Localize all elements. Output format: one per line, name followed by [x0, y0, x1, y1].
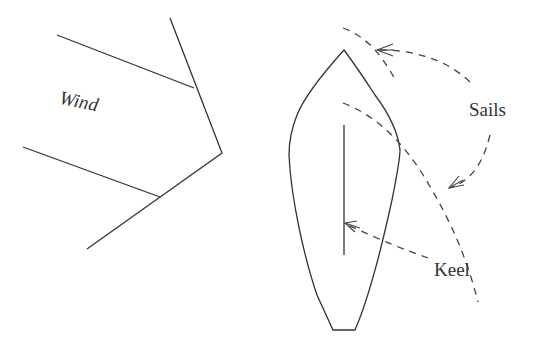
sailboat-diagram: Wind Sails Keel — [0, 0, 537, 348]
keel-pointer — [346, 224, 428, 258]
arrowhead-icon — [377, 44, 394, 56]
sail-upper — [343, 28, 396, 82]
sails-pointer-upper — [378, 50, 470, 82]
wind-arrow-lower-shaft — [23, 147, 160, 197]
wind-arrow-upper-shaft — [57, 35, 194, 88]
wind-arrow — [23, 18, 222, 249]
wind-arrow-head — [87, 18, 222, 249]
keel-label: Keel — [434, 259, 470, 280]
sails-label: Sails — [469, 99, 506, 120]
wind-label: Wind — [58, 87, 101, 116]
